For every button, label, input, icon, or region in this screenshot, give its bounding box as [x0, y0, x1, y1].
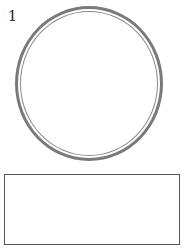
- answer-box[interactable]: [4, 174, 180, 245]
- question-number: 1: [8, 9, 17, 23]
- circle-inner-ring: [20, 11, 158, 156]
